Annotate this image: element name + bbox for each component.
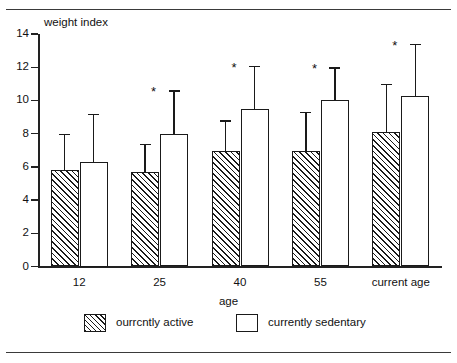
significance-marker: * (312, 65, 317, 73)
legend: ourrcntly activecurrently sedentary (0, 312, 457, 342)
error-bar-cap (140, 144, 151, 145)
error-bar-stem (93, 114, 94, 162)
y-tick-label: 12 (5, 61, 29, 73)
bar-active-current-age (372, 132, 400, 267)
bar-active-40 (212, 151, 240, 266)
y-tick-mark (31, 100, 38, 101)
error-bar-cap (88, 114, 99, 115)
significance-marker: * (232, 64, 237, 72)
y-axis-title: weight index (44, 16, 108, 28)
y-tick-mark (31, 33, 38, 34)
y-axis-line (38, 34, 40, 267)
y-tick-label: 4 (5, 194, 29, 206)
error-bar-stem (386, 84, 387, 132)
error-bar-cap (220, 120, 231, 121)
bar-sedentary-current-age (401, 96, 429, 266)
error-bar-stem (225, 120, 226, 151)
error-bar-cap (381, 84, 392, 85)
error-bar-stem (305, 112, 306, 151)
legend-label: ourrcntly active (116, 316, 193, 328)
error-bar-stem (173, 90, 174, 133)
bar-sedentary-55 (321, 100, 349, 267)
x-axis-title: age (0, 295, 457, 307)
bar-active-25 (131, 172, 159, 267)
significance-marker: * (151, 88, 156, 96)
y-tick-mark (31, 233, 38, 234)
significance-marker: * (392, 42, 397, 50)
error-bar-cap (169, 90, 180, 91)
error-bar-stem (144, 144, 145, 172)
y-tick-mark (31, 166, 38, 167)
bar-sedentary-25 (160, 134, 188, 267)
y-tick-mark (31, 133, 38, 134)
bar-sedentary-12 (80, 162, 108, 267)
error-bar-cap (410, 44, 421, 45)
bar-chart: weight index age 02468101214 12254055cur… (0, 0, 457, 363)
error-bar-cap (329, 67, 340, 68)
y-tick-label: 2 (5, 227, 29, 239)
y-tick-label: 14 (5, 28, 29, 40)
legend-swatch-sedentary (236, 314, 258, 332)
error-bar-stem (334, 67, 335, 99)
error-bar-cap (249, 66, 260, 67)
bar-active-55 (292, 151, 320, 266)
y-tick-label: 10 (5, 94, 29, 106)
y-tick-mark (31, 266, 38, 267)
error-bar-stem (415, 44, 416, 96)
error-bar-stem (254, 66, 255, 109)
legend-swatch-active (84, 314, 106, 332)
bar-active-12 (51, 170, 79, 266)
error-bar-cap (59, 134, 70, 135)
bar-sedentary-40 (241, 109, 269, 267)
y-tick-label: 8 (5, 128, 29, 140)
error-bar-stem (64, 134, 65, 171)
error-bar-cap (300, 112, 311, 113)
y-tick-label: 0 (5, 261, 29, 273)
x-tick-label: current age (351, 276, 451, 288)
legend-label: currently sedentary (268, 316, 366, 328)
y-tick-label: 6 (5, 161, 29, 173)
y-tick-mark (31, 199, 38, 200)
y-tick-mark (31, 67, 38, 68)
